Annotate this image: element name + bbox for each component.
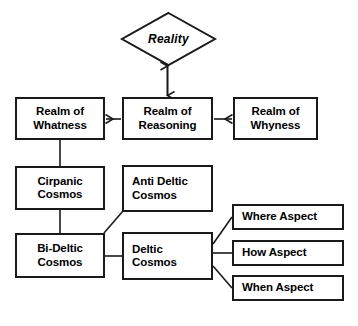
where-aspect-box: Where Aspect (232, 204, 344, 230)
where-aspect-label: Where Aspect (242, 210, 317, 224)
anti-deltic-cosmos-line2: Cosmos (132, 189, 177, 203)
connector-deltic-where (213, 217, 232, 244)
realm-reasoning-line2: Reasoning (139, 119, 197, 133)
cirpanic-cosmos-box: Cirpanic Cosmos (15, 166, 105, 210)
connector-deltic-when (213, 266, 232, 288)
realm-whatness-line2: Whatness (33, 119, 87, 133)
connector-bideltic-antideltic (104, 211, 123, 233)
deltic-cosmos-line1: Deltic (132, 243, 163, 257)
when-aspect-label: When Aspect (242, 281, 313, 295)
realm-reasoning-line1: Realm of (144, 105, 192, 119)
bi-deltic-cosmos-box: Bi-Deltic Cosmos (15, 233, 105, 278)
realm-whyness-box: Realm of Whyness (233, 97, 318, 140)
bi-deltic-cosmos-line2: Cosmos (38, 256, 83, 270)
bi-deltic-cosmos-line1: Bi-Deltic (37, 242, 83, 256)
how-aspect-label: How Aspect (242, 246, 306, 260)
anti-deltic-cosmos-box: Anti Deltic Cosmos (122, 165, 213, 212)
reality-diamond-label: Reality (122, 32, 215, 46)
realm-reasoning-box: Realm of Reasoning (122, 97, 213, 140)
anti-deltic-cosmos-line1: Anti Deltic (132, 175, 188, 189)
realm-whyness-line2: Whyness (251, 119, 301, 133)
cirpanic-cosmos-line1: Cirpanic (37, 175, 82, 189)
realm-whyness-line1: Realm of (252, 105, 300, 119)
diagram-canvas: Reality Realm of Whatness Realm of Reaso… (0, 0, 358, 326)
deltic-cosmos-box: Deltic Cosmos (122, 232, 213, 280)
when-aspect-box: When Aspect (232, 275, 344, 301)
realm-whatness-line1: Realm of (36, 105, 84, 119)
deltic-cosmos-line2: Cosmos (132, 256, 177, 270)
how-aspect-box: How Aspect (232, 240, 344, 266)
realm-whatness-box: Realm of Whatness (15, 97, 105, 140)
reality-diamond: Reality (122, 13, 215, 65)
cirpanic-cosmos-line2: Cosmos (38, 188, 83, 202)
